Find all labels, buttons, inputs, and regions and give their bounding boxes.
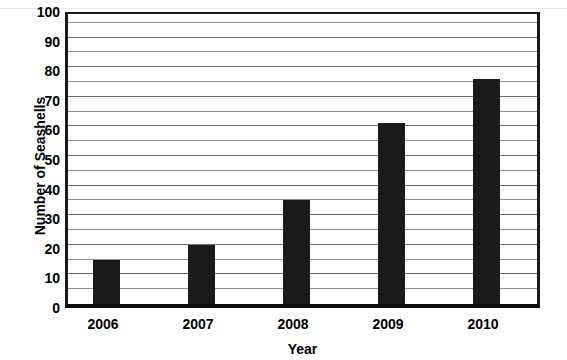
gridline <box>68 51 537 52</box>
x-tick-label-2007: 2007 <box>153 316 243 333</box>
gridline <box>68 81 537 82</box>
bar-2009 <box>378 123 405 304</box>
x-tick-label-2010: 2010 <box>438 316 528 333</box>
gridline <box>68 96 537 97</box>
scan-artifact-line <box>0 8 567 9</box>
gridline <box>68 37 537 38</box>
y-axis-tick-labels: 0102030405060708090100 <box>22 12 60 308</box>
bar-2006 <box>93 260 120 304</box>
x-tick-label-2006: 2006 <box>58 316 148 333</box>
y-tick-label-40: 40 <box>22 183 60 197</box>
x-tick-label-2009: 2009 <box>343 316 433 333</box>
gridline <box>68 111 537 112</box>
y-tick-label-20: 20 <box>22 242 60 256</box>
plot-area <box>65 12 540 308</box>
gridline <box>68 125 537 126</box>
bar-chart: Number of Seashells 01020304050607080901… <box>0 0 567 360</box>
y-tick-label-50: 50 <box>22 153 60 167</box>
x-axis-tick-labels: 20062007200820092010 <box>65 316 540 338</box>
y-tick-label-60: 60 <box>22 123 60 137</box>
gridline <box>68 140 537 141</box>
y-tick-label-100: 100 <box>22 5 60 19</box>
plot-inner <box>68 14 537 304</box>
y-tick-label-10: 10 <box>22 271 60 285</box>
x-axis-title: Year <box>65 341 540 357</box>
y-tick-label-90: 90 <box>22 35 60 49</box>
y-tick-label-30: 30 <box>22 212 60 226</box>
y-tick-label-70: 70 <box>22 94 60 108</box>
y-tick-label-80: 80 <box>22 64 60 78</box>
y-tick-label-0: 0 <box>22 301 60 315</box>
gridline <box>68 185 537 186</box>
gridline <box>68 170 537 171</box>
gridline <box>68 22 537 23</box>
bar-2008 <box>283 200 310 304</box>
gridline <box>68 155 537 156</box>
bar-2007 <box>188 245 215 304</box>
x-tick-label-2008: 2008 <box>248 316 338 333</box>
bar-2010 <box>473 79 500 304</box>
gridline <box>68 66 537 67</box>
